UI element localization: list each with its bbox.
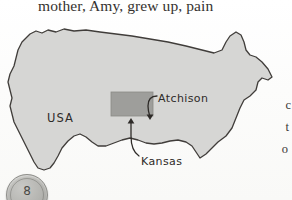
book-page: mother, Amy, grew up, pain c t o USA Atc… bbox=[0, 0, 292, 200]
kansas-highlight-rect bbox=[111, 92, 153, 116]
usa-map-figure: USA Atchison Kansas bbox=[0, 22, 292, 182]
map-label-atchison: Atchison bbox=[158, 92, 208, 105]
map-label-usa: USA bbox=[47, 111, 74, 125]
body-text-top-line: mother, Amy, grew up, pain bbox=[38, 0, 213, 15]
page-number-text: 8 bbox=[23, 184, 31, 198]
map-label-kansas: Kansas bbox=[141, 155, 182, 168]
